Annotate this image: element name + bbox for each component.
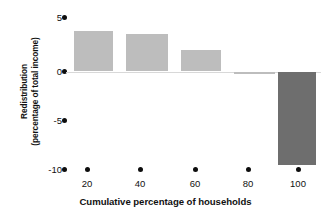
redistribution-bar-chart: Redistribution (percentage of total inco… <box>0 0 331 220</box>
x-axis-title: Cumulative percentage of households <box>0 196 331 207</box>
x-tick-label-100: 100 <box>278 178 318 189</box>
x-tick-dot-100 <box>296 167 301 172</box>
x-tick-dot-60 <box>193 167 198 172</box>
y-tick-label-neg10: -10 <box>36 164 62 175</box>
bar-60 <box>181 50 221 72</box>
y-axis-ticks: 5 0 -5 -10 <box>36 0 62 220</box>
x-tick-dot-40 <box>138 167 143 172</box>
bar-40 <box>126 34 168 71</box>
bar-20 <box>74 31 113 71</box>
x-tick-dot-80 <box>246 167 251 172</box>
y-tick-label-neg5: -5 <box>36 115 62 126</box>
x-tick-dot-20 <box>85 167 90 172</box>
y-tick-label-0: 0 <box>36 66 62 77</box>
y-tick-label-5: 5 <box>36 12 62 23</box>
x-tick-label-80: 80 <box>228 178 268 189</box>
x-tick-label-40: 40 <box>120 178 160 189</box>
x-tick-label-60: 60 <box>175 178 215 189</box>
bar-80 <box>234 72 275 74</box>
bar-100 <box>278 72 316 165</box>
plot-area <box>66 10 321 175</box>
y-axis-title-line-1: Redistribution <box>19 37 30 145</box>
x-tick-label-20: 20 <box>67 178 107 189</box>
